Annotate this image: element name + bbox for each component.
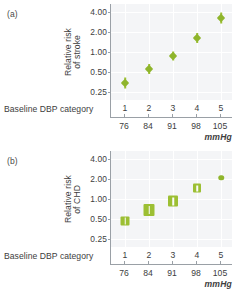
gridline-horizontal [111, 179, 232, 180]
panel-a-category-tick-labels: 1 2 3 4 5 [110, 100, 232, 117]
category-tick-label: 3 [171, 250, 176, 260]
gridline-horizontal [111, 159, 232, 160]
x-tick-label: 76 [119, 121, 129, 131]
x-tick-label: 84 [143, 268, 153, 278]
y-tick-mark [108, 72, 111, 73]
marker-square [144, 204, 155, 216]
x-tick-label: 105 [213, 268, 227, 278]
category-tick-label: 4 [195, 250, 200, 260]
x-tick-mark [124, 261, 125, 265]
x-tick-mark [196, 114, 197, 118]
panel-a-letter: (a) [7, 9, 18, 19]
category-tick-label: 4 [195, 103, 200, 113]
panel-a-unit-label: mmHg [204, 132, 232, 142]
y-axis-title-line2: of CHD [73, 185, 82, 214]
y-tick-mark [108, 52, 111, 53]
y-tick-mark [108, 239, 111, 240]
x-tick-mark [172, 261, 173, 265]
y-tick-mark [108, 32, 111, 33]
category-tick-label: 5 [219, 103, 224, 113]
gridline-horizontal [111, 239, 232, 240]
gridline-vertical [197, 4, 198, 100]
gridline-vertical [125, 151, 126, 247]
gridline-vertical [149, 151, 150, 247]
y-tick-mark [108, 92, 111, 93]
marker-square [121, 216, 130, 225]
panel-a-category-axis-label: Baseline DBP category [4, 104, 93, 114]
marker-diamond [217, 13, 225, 21]
gridline-horizontal [111, 12, 232, 13]
y-tick-mark [108, 219, 111, 220]
y-tick-label: 2.00 [90, 174, 107, 184]
category-tick-label: 2 [147, 250, 152, 260]
gridline-horizontal [111, 32, 232, 33]
y-tick-label: 0.50 [90, 214, 107, 224]
x-tick-label: 76 [119, 268, 129, 278]
category-tick-label: 1 [123, 103, 128, 113]
panel-a-y-axis-title: Relative risk of stroke [58, 4, 88, 100]
y-tick-label: 2.00 [90, 27, 107, 37]
marker-dot [218, 175, 224, 181]
x-tick-mark [124, 114, 125, 118]
panel-a-y-tick-labels: 4.00 2.00 1.00 0.50 0.25 [85, 4, 107, 100]
panel-b-unit-label: mmHg [204, 279, 232, 289]
gridline-vertical [197, 151, 198, 247]
category-tick-label: 2 [147, 103, 152, 113]
x-tick-label: 91 [167, 268, 177, 278]
marker-diamond [193, 33, 201, 41]
panel-b-y-tick-labels: 4.00 2.00 1.00 0.50 0.25 [85, 151, 107, 247]
y-tick-label: 1.00 [90, 194, 107, 204]
panel-b: (b) Relative risk of CHD 4.00 2.00 1.00 … [0, 147, 237, 294]
y-tick-label: 0.25 [90, 234, 107, 244]
x-tick-mark [220, 114, 221, 118]
x-tick-mark [148, 261, 149, 265]
y-tick-label: 4.00 [90, 7, 107, 17]
gridline-horizontal [111, 72, 232, 73]
panel-a-plot-area [110, 4, 232, 100]
y-tick-label: 1.00 [90, 47, 107, 57]
panel-a: (a) Relative risk of stroke 4.00 2.00 1.… [0, 0, 237, 147]
x-tick-mark [196, 261, 197, 265]
panel-b-letter: (b) [7, 156, 18, 166]
panel-b-y-axis-title: Relative risk of CHD [58, 151, 88, 247]
y-tick-mark [108, 12, 111, 13]
category-tick-label: 3 [171, 103, 176, 113]
y-tick-mark [108, 179, 111, 180]
x-tick-label: 84 [143, 121, 153, 131]
gridline-vertical [221, 151, 222, 247]
marker-square [193, 184, 201, 193]
x-tick-mark [148, 114, 149, 118]
category-tick-label: 5 [219, 250, 224, 260]
panel-b-category-tick-labels: 1 2 3 4 5 [110, 247, 232, 264]
panel-b-plot-area [110, 151, 232, 247]
y-axis-title-line2: of stroke [73, 35, 82, 69]
y-tick-label: 4.00 [90, 154, 107, 164]
x-tick-label: 98 [191, 268, 201, 278]
y-tick-label: 0.25 [90, 87, 107, 97]
x-tick-label: 98 [191, 121, 201, 131]
y-tick-mark [108, 199, 111, 200]
y-tick-mark [108, 159, 111, 160]
panel-b-category-axis-label: Baseline DBP category [4, 251, 93, 261]
x-tick-mark [220, 261, 221, 265]
gridline-horizontal [111, 92, 232, 93]
marker-diamond [121, 79, 129, 87]
marker-square [168, 196, 178, 207]
category-tick-label: 1 [123, 250, 128, 260]
y-tick-label: 0.50 [90, 67, 107, 77]
x-tick-mark [172, 114, 173, 118]
x-tick-label: 105 [213, 121, 227, 131]
x-tick-label: 91 [167, 121, 177, 131]
gridline-vertical [149, 4, 150, 100]
